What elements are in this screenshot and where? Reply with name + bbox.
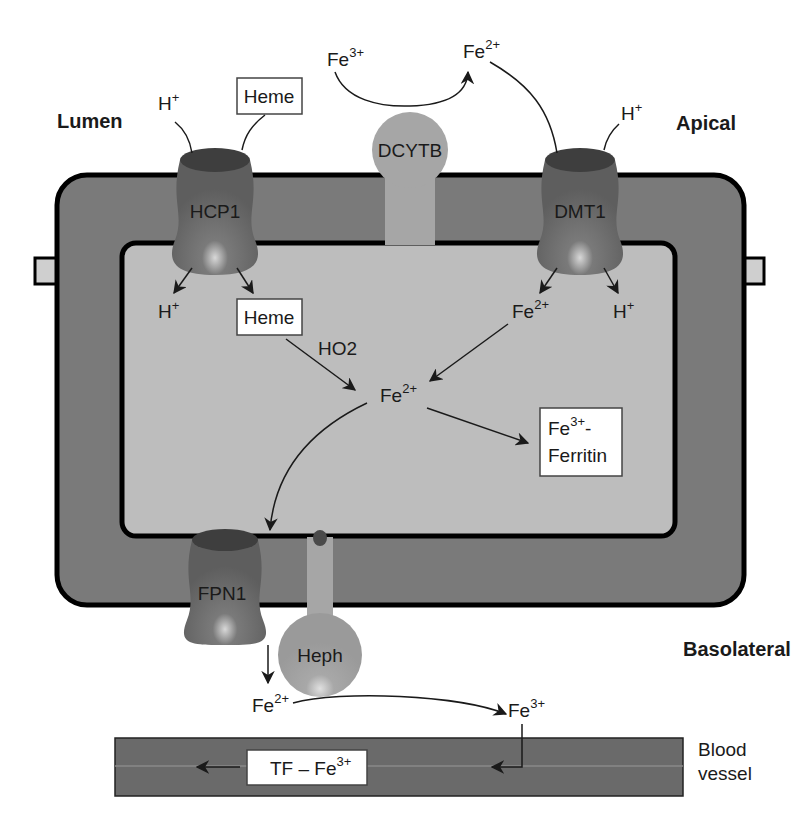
dcytb-reduction-arrow [335, 72, 468, 106]
lumen-fe3-ion: Fe3+ [327, 45, 364, 70]
basolateral-fe2-ion: Fe2+ [252, 691, 289, 716]
fpn1-transporter: FPN1 [184, 529, 266, 645]
heph-oxidation-arrow [293, 696, 506, 714]
ferritin-label-line2: Ferritin [548, 445, 607, 466]
apical-label: Apical [676, 112, 736, 134]
heme-to-hcp1-path [242, 115, 265, 150]
h-ion-to-dmt1-path [604, 124, 619, 150]
lumen-fe2-ion: Fe2+ [463, 37, 500, 62]
apical-h-ion: H+ [621, 100, 642, 124]
ferritin-label-line1: Fe3+- [548, 414, 591, 439]
blood-vessel-label-1: Blood [698, 739, 747, 760]
dmt1-transporter: DMT1 [537, 148, 623, 275]
iron-absorption-diagram: DCYTB HCP1 DMT1 FPN1 Heph Lumen Apical B… [0, 0, 796, 818]
dcytb-label: DCYTB [378, 140, 442, 161]
lumen-heme-label: Heme [244, 86, 295, 107]
heph-label: Heph [297, 645, 342, 666]
dmt1-label: DMT1 [554, 201, 606, 222]
ho2-label: HO2 [318, 338, 357, 359]
left-membrane-tab [35, 258, 57, 284]
lumen-h-ion: H+ [158, 90, 179, 114]
h-ion-to-hcp1-path [175, 122, 192, 153]
hcp1-transporter: HCP1 [172, 148, 258, 275]
fe2-to-dmt1-path [490, 62, 557, 153]
hcp1-label: HCP1 [190, 201, 241, 222]
fpn1-label: FPN1 [198, 583, 247, 604]
cell-heme-label: Heme [244, 307, 295, 328]
lumen-label: Lumen [57, 110, 123, 132]
basolateral-fe3-ion: Fe3+ [508, 696, 545, 721]
basolateral-label: Basolateral [683, 638, 791, 660]
blood-vessel-label-2: vessel [698, 763, 752, 784]
